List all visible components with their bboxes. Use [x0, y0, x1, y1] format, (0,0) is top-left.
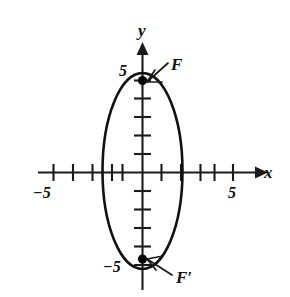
focus-label-upper: F	[170, 55, 183, 74]
ellipse-graph-figure: y x 5 −5 −5 5 F F′	[0, 0, 290, 297]
focus-label-lower: F′	[175, 268, 192, 287]
coordinate-plane-svg: y x 5 −5 −5 5 F F′	[0, 0, 290, 297]
focus-point-lower	[138, 254, 147, 263]
focus-point-upper	[138, 76, 147, 85]
y-tick-label-negative-five: −5	[103, 258, 121, 275]
y-tick-label-positive-five: 5	[119, 62, 127, 79]
y-axis-label: y	[136, 21, 146, 40]
x-tick-label-positive-five: 5	[228, 184, 236, 201]
x-tick-label-negative-five: −5	[33, 184, 51, 201]
x-axis-label: x	[263, 163, 273, 182]
x-axis	[38, 164, 268, 181]
y-axis-arrowhead	[137, 42, 149, 55]
